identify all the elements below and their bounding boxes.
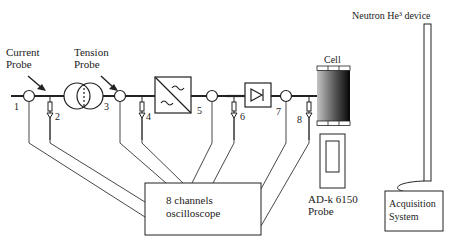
point-label-1: 1 [14, 101, 19, 112]
point-label-2: 2 [55, 111, 60, 122]
current-sensor-5 [207, 91, 218, 102]
adk-probe-label-1: AD-k 6150 [308, 193, 358, 205]
acquisition-label-1: Acquisition [389, 198, 436, 209]
acquisition-label-2: System [389, 211, 419, 222]
current-sensor-7 [281, 91, 292, 102]
cell-label: Cell [324, 54, 341, 65]
adk-probe-label-2: Probe [308, 205, 334, 217]
point-label-8: 8 [297, 114, 302, 125]
oscilloscope-label-2: oscilloscope [166, 207, 220, 219]
tension-probe-arrow [101, 76, 118, 91]
transformer-icon [64, 83, 103, 109]
ac-converter-icon [155, 77, 191, 113]
current-probe-arrow [28, 76, 46, 91]
tension-probe-label-2: Probe [74, 58, 100, 70]
electrolytic-cell [317, 66, 350, 126]
neutron-device-label: Neutron He³ device [352, 10, 431, 21]
tension-probe-label-1: Tension [74, 46, 109, 58]
oscilloscope-label-1: 8 channels [166, 194, 213, 206]
current-probe-label-1: Current [6, 46, 40, 58]
measurement-schematic: Current Probe Tension Probe 1 2 3 4 5 6 … [0, 0, 452, 245]
neutron-detector-tube [397, 24, 431, 192]
point-label-5: 5 [197, 105, 202, 116]
current-probe-label-2: Probe [6, 58, 32, 70]
current-sensor-1 [24, 91, 35, 102]
point-label-7: 7 [276, 106, 281, 117]
adk-probe-device [320, 134, 345, 188]
diode-icon [245, 83, 271, 107]
point-label-3: 3 [104, 101, 109, 112]
current-sensor-3 [115, 91, 126, 102]
point-label-6: 6 [240, 111, 245, 122]
point-label-4: 4 [146, 111, 151, 122]
